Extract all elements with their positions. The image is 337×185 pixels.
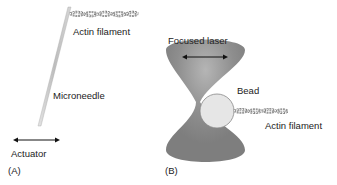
figure: Actin filament Microneedle Actuator (A) … — [0, 0, 337, 185]
actin-filament-label-b: Actin filament — [265, 121, 322, 131]
panel-a-tag: (A) — [8, 166, 21, 176]
bead — [200, 94, 234, 128]
diagram-graphics — [0, 0, 337, 185]
actin-filament-a — [70, 12, 138, 16]
actuator-label: Actuator — [11, 149, 46, 159]
bead-label: Bead — [237, 86, 259, 96]
actin-filament-label-a: Actin filament — [73, 27, 130, 37]
actin-filament-b — [234, 109, 288, 113]
focused-laser-label: Focused laser — [168, 36, 228, 46]
panel-b-tag: (B) — [165, 166, 178, 176]
microneedle — [38, 7, 71, 126]
microneedle-label: Microneedle — [53, 91, 105, 101]
actuator-arrow-icon — [13, 138, 60, 143]
